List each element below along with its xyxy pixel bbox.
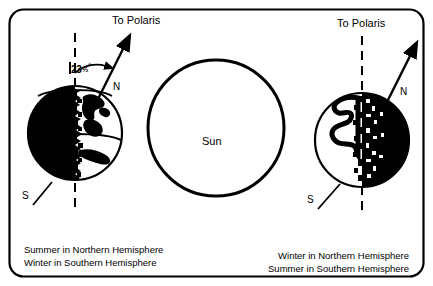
seasons-diagram-figure: To Polaris 23½° N S Sun To Polaris N S S… (0, 0, 433, 286)
right-caption-line-2: Summer in Southern Hemisphere (268, 262, 409, 275)
left-north-pole-label: N (113, 81, 120, 93)
left-caption-line-1: Summer in Northern Hemisphere (24, 243, 163, 256)
right-caption-line-1: Winter in Northern Hemisphere (268, 249, 409, 262)
axial-tilt-angle-label: 23½° (71, 63, 91, 76)
right-south-pole-label: S (307, 194, 314, 206)
right-to-polaris-label: To Polaris (337, 17, 385, 30)
left-south-pole-label: S (22, 190, 29, 202)
right-earth-axis-arrow (383, 54, 411, 110)
left-to-polaris-label: To Polaris (112, 14, 160, 27)
degree-symbol: ° (88, 63, 91, 70)
tilt-degrees-value: 23 (71, 64, 82, 75)
sun-circle (148, 60, 284, 196)
right-north-pole-label: N (400, 86, 407, 98)
left-south-pole-leader (33, 182, 52, 205)
left-caption: Summer in Northern Hemisphere Winter in … (24, 243, 163, 269)
right-south-pole-leader (318, 184, 340, 209)
right-caption: Winter in Northern Hemisphere Summer in … (268, 249, 409, 275)
sun-label: Sun (202, 135, 222, 148)
left-caption-line-2: Winter in Southern Hemisphere (24, 256, 163, 269)
right-earth-group (315, 36, 417, 215)
left-earth-group (20, 33, 124, 212)
